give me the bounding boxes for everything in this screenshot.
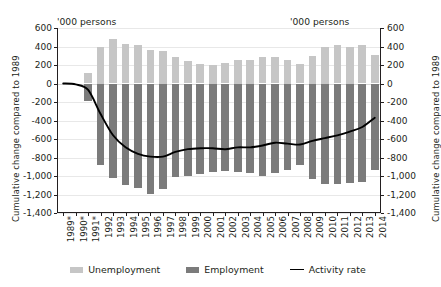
activity-rate-line <box>57 28 381 213</box>
x-tick-label: 2004 <box>254 216 263 238</box>
y-tick-label: -800 <box>32 153 52 162</box>
bottom-axis-spine <box>57 212 381 213</box>
y-tick-label: -1,000 <box>387 172 416 181</box>
y-tick <box>381 158 384 159</box>
x-tick-label: 1994 <box>130 216 139 238</box>
x-tick-label: 2001 <box>217 216 226 238</box>
x-tick-label: 2014 <box>379 216 388 238</box>
y-tick-label: -600 <box>387 135 407 144</box>
y-tick <box>381 65 384 66</box>
y-tick <box>381 84 384 85</box>
y-tick-label: -200 <box>387 98 407 107</box>
gridline <box>57 213 381 214</box>
x-tick-label: 1996 <box>154 216 163 238</box>
x-tick-label: 1991* <box>92 216 101 242</box>
y-tick-label: -400 <box>32 116 52 125</box>
y-tick <box>381 28 384 29</box>
legend-item-employment: Employment <box>186 264 263 275</box>
y-tick <box>54 195 57 196</box>
x-tick-labels: 1989*1990*1991*1992199319941995199619971… <box>57 216 381 262</box>
y-tick-label: -200 <box>32 98 52 107</box>
right-unit-caption: '000 persons <box>290 16 349 27</box>
y-tick <box>54 121 57 122</box>
y-tick <box>54 28 57 29</box>
y-tick-label: 600 <box>387 24 404 33</box>
y-tick-label: -1,200 <box>23 190 52 199</box>
y-tick-label: -600 <box>32 135 52 144</box>
y-tick-label: -400 <box>387 116 407 125</box>
x-tick-label: 2010 <box>329 216 338 238</box>
y-tick-label: 200 <box>35 61 52 70</box>
employment-swatch-icon <box>186 267 199 273</box>
x-tick-label: 2000 <box>204 216 213 238</box>
x-tick-label: 2006 <box>279 216 288 238</box>
legend-label-activity-rate: Activity rate <box>309 264 366 275</box>
left-y-tick-labels: 6004002000-200-400-600-800-1,000-1,200-1… <box>16 28 52 213</box>
chart-legend: Unemployment Employment Activity rate <box>0 264 436 275</box>
x-tick-label: 1995 <box>142 216 151 238</box>
y-tick-label: -1,000 <box>23 172 52 181</box>
x-tick-label: 2005 <box>267 216 276 238</box>
y-tick <box>381 176 384 177</box>
y-tick <box>381 195 384 196</box>
x-tick-label: 1993 <box>117 216 126 238</box>
y-tick <box>54 158 57 159</box>
x-tick-label: 2012 <box>354 216 363 238</box>
x-tick-label: 1990* <box>80 216 89 242</box>
left-axis-spine <box>57 28 58 213</box>
x-tick-label: 2008 <box>304 216 313 238</box>
activity-rate-path <box>63 84 375 158</box>
legend-item-unemployment: Unemployment <box>70 264 160 275</box>
y-tick <box>54 84 57 85</box>
x-tick-label: 1992 <box>105 216 114 238</box>
x-tick-label: 1999 <box>192 216 201 238</box>
y-tick-label: 0 <box>46 79 52 88</box>
y-tick <box>54 65 57 66</box>
right-y-tick-labels: 6004002000-200-400-600-800-1,000-1,200-1… <box>387 28 427 213</box>
legend-label-unemployment: Unemployment <box>88 264 160 275</box>
x-tick-label: 2003 <box>242 216 251 238</box>
y-tick-label: 400 <box>35 42 52 51</box>
x-tick-label: 2002 <box>229 216 238 238</box>
x-tick-label: 1998 <box>179 216 188 238</box>
y-tick-label: -1,400 <box>387 209 416 218</box>
plot-area <box>57 28 381 213</box>
y-tick <box>381 139 384 140</box>
y-tick-label: 0 <box>387 79 393 88</box>
legend-item-activity-rate: Activity rate <box>290 264 366 275</box>
y-tick <box>381 213 384 214</box>
y-tick <box>381 121 384 122</box>
x-tick-label: 2013 <box>366 216 375 238</box>
x-tick-label: 1997 <box>167 216 176 238</box>
y-tick-label: 600 <box>35 24 52 33</box>
y-tick-label: -1,400 <box>23 209 52 218</box>
x-tick-label: 1989* <box>67 216 76 242</box>
y-tick <box>54 102 57 103</box>
y-tick <box>54 213 57 214</box>
y-tick-label: -800 <box>387 153 407 162</box>
y-tick <box>54 176 57 177</box>
left-unit-caption: '000 persons <box>57 16 116 27</box>
x-tick-label: 2009 <box>316 216 325 238</box>
legend-label-employment: Employment <box>204 264 263 275</box>
x-tick-label: 2007 <box>292 216 301 238</box>
unemployment-swatch-icon <box>70 267 83 273</box>
right-axis-title: Cumulative change compared to 1989 <box>431 55 441 222</box>
y-tick <box>381 102 384 103</box>
y-tick <box>381 47 384 48</box>
x-tick-label: 2011 <box>341 216 350 238</box>
y-tick-label: 400 <box>387 42 404 51</box>
y-tick-label: 200 <box>387 61 404 70</box>
y-tick <box>54 139 57 140</box>
y-tick <box>54 47 57 48</box>
activity-rate-swatch-icon <box>290 269 304 270</box>
y-tick-label: -1,200 <box>387 190 416 199</box>
